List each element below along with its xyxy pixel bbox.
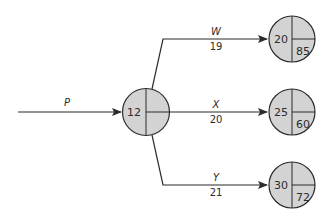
node-start-left-value: 12 (127, 106, 141, 119)
activity-y: Y 21 (152, 135, 267, 198)
node-top: 20 85 (269, 16, 315, 62)
activity-label-p: P (64, 97, 71, 108)
activity-w: W 19 (152, 26, 267, 89)
activity-x: X 20 (170, 99, 267, 125)
node-bottom: 30 72 (269, 162, 315, 208)
node-bottom-lower-right-value: 72 (296, 191, 310, 204)
activity-duration-y: 21 (210, 187, 223, 198)
activity-label-w: W (211, 26, 222, 37)
node-bottom-left-value: 30 (274, 179, 288, 192)
node-top-lower-right-value: 85 (296, 45, 310, 58)
activity-label-y: Y (213, 172, 220, 183)
node-middle-lower-right-value: 60 (296, 118, 310, 131)
activity-p: P (18, 97, 121, 112)
activity-duration-w: 19 (210, 41, 223, 52)
activity-label-x: X (212, 99, 221, 110)
node-top-left-value: 20 (274, 33, 288, 46)
node-middle: 25 60 (269, 89, 315, 135)
network-diagram: P W 19 X 20 Y 21 12 20 85 25 60 (0, 0, 332, 220)
activity-duration-x: 20 (210, 114, 223, 125)
arrow-y (152, 135, 267, 185)
node-start: 12 (123, 89, 170, 136)
node-middle-left-value: 25 (274, 106, 288, 119)
